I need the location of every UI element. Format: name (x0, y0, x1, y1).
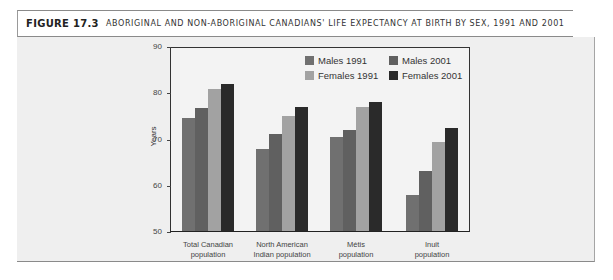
figure-label: FIGURE 17.3 (26, 18, 99, 29)
x-category-label: Métispopulation (316, 240, 396, 260)
legend-swatch (389, 56, 398, 65)
y-tick-label: 60 (142, 181, 162, 190)
y-tick (167, 186, 171, 187)
bar (343, 130, 356, 231)
figure-title: ABORIGINAL AND NON-ABORIGINAL CANADIANS'… (106, 19, 565, 28)
y-tick (167, 232, 171, 233)
bar (330, 137, 343, 231)
bar (369, 102, 382, 231)
y-tick-label: 80 (142, 88, 162, 97)
y-tick (167, 93, 171, 94)
bar (406, 195, 419, 231)
y-tick-label: 90 (142, 42, 162, 51)
legend-label: Males 2001 (402, 55, 451, 66)
legend-swatch (305, 71, 314, 80)
bar (208, 89, 221, 231)
legend-item-males-2001: Males 2001 (389, 55, 451, 66)
legend-item-males-1991: Males 1991 (305, 55, 367, 66)
x-category-label: Inuitpopulation (392, 240, 472, 260)
x-category-label: Total Canadianpopulation (168, 240, 248, 260)
figure-header: FIGURE 17.3 ABORIGINAL AND NON-ABORIGINA… (17, 10, 573, 37)
bar (295, 107, 308, 231)
bar (269, 134, 282, 231)
bar (356, 107, 369, 231)
x-category-label: North AmericanIndian population (242, 240, 322, 260)
legend-swatch (305, 56, 314, 65)
bar (256, 149, 269, 231)
legend-swatch (389, 71, 398, 80)
bar (182, 118, 195, 231)
legend-item-females-1991: Females 1991 (305, 70, 378, 81)
bar (195, 108, 208, 231)
y-tick (167, 140, 171, 141)
legend-label: Females 2001 (402, 70, 462, 81)
y-tick-label: 50 (142, 227, 162, 236)
bar (432, 142, 445, 231)
legend-label: Females 1991 (318, 70, 378, 81)
y-tick (167, 47, 171, 48)
bar (419, 171, 432, 231)
legend-label: Males 1991 (318, 55, 367, 66)
bar (445, 128, 458, 231)
bar (221, 84, 234, 231)
legend: Males 1991 Males 2001 Females 1991 Femal… (305, 55, 465, 95)
y-tick-label: 70 (142, 135, 162, 144)
bar (282, 116, 295, 231)
legend-item-females-2001: Females 2001 (389, 70, 462, 81)
